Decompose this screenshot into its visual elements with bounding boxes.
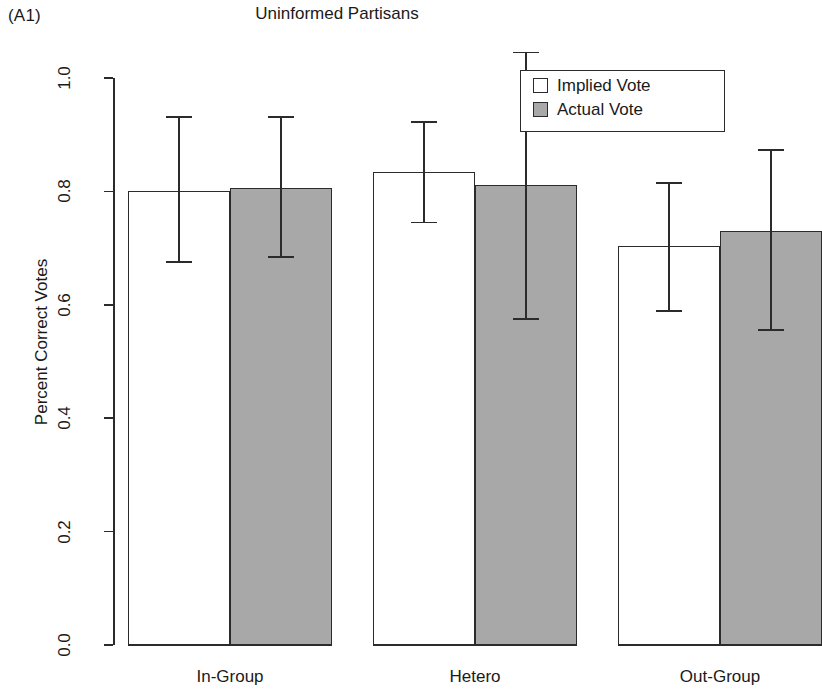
- y-axis-tick-label: 0.2: [55, 509, 75, 555]
- legend: Implied Vote Actual Vote: [520, 70, 725, 132]
- error-bar-cap: [758, 329, 784, 331]
- y-axis-title: Percent Correct Votes: [32, 252, 52, 432]
- x-axis-baseline: [618, 644, 822, 646]
- error-bar-cap: [411, 222, 437, 224]
- bar[interactable]: [373, 172, 475, 645]
- error-bar-cap: [166, 261, 192, 263]
- error-bar: [280, 117, 282, 256]
- chart-title: Uninformed Partisans: [0, 4, 712, 24]
- legend-item-actual-vote[interactable]: Actual Vote: [533, 101, 643, 118]
- x-axis-baseline: [373, 644, 577, 646]
- error-bar-cap: [268, 256, 294, 258]
- x-axis-baseline: [128, 644, 332, 646]
- y-axis-tick: [104, 417, 113, 419]
- legend-item-implied-vote[interactable]: Implied Vote: [533, 77, 651, 94]
- error-bar-cap: [166, 116, 192, 118]
- error-bar: [668, 183, 670, 311]
- x-axis-label: Out-Group: [640, 667, 800, 687]
- y-axis-tick-label: 0.4: [55, 395, 75, 441]
- error-bar: [178, 117, 180, 262]
- y-axis-tick: [104, 304, 113, 306]
- legend-swatch-icon: [533, 102, 548, 117]
- y-axis-tick: [104, 531, 113, 533]
- error-bar-cap: [656, 310, 682, 312]
- error-bar-cap: [513, 318, 539, 320]
- y-axis-tick: [104, 77, 113, 79]
- x-axis-label: In-Group: [150, 667, 310, 687]
- y-axis-tick: [104, 191, 113, 193]
- error-bar-cap: [513, 52, 539, 54]
- legend-swatch-icon: [533, 78, 548, 93]
- y-axis-tick-label: 0.8: [55, 168, 75, 214]
- x-axis-label: Hetero: [395, 667, 555, 687]
- legend-label: Actual Vote: [557, 101, 643, 118]
- y-axis-tick-label: 1.0: [55, 55, 75, 101]
- error-bar: [770, 150, 772, 330]
- error-bar-cap: [268, 116, 294, 118]
- error-bar-cap: [656, 182, 682, 184]
- error-bar-cap: [758, 149, 784, 151]
- error-bar: [423, 122, 425, 222]
- y-axis-tick-label: 0.0: [55, 622, 75, 668]
- error-bar-cap: [411, 121, 437, 123]
- y-axis-tick-label: 0.6: [55, 282, 75, 328]
- y-axis-tick: [104, 644, 113, 646]
- legend-label: Implied Vote: [557, 77, 651, 94]
- y-axis-line: [113, 78, 115, 645]
